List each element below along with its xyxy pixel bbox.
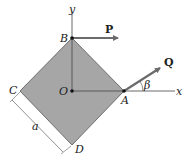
label-force-p: P — [105, 23, 113, 36]
label-force-q: Q — [164, 56, 174, 69]
label-dimension-a: a — [32, 120, 39, 133]
square-plate-diagram: y x B O A C D a P Q β — [0, 0, 187, 160]
angle-beta-arc — [140, 81, 143, 91]
label-b: B — [59, 32, 68, 45]
force-q-arrow — [124, 68, 160, 91]
point-o — [70, 89, 74, 93]
label-a: A — [120, 94, 129, 107]
label-o: O — [59, 85, 68, 98]
point-a — [122, 89, 126, 93]
label-angle-beta: β — [143, 79, 150, 92]
dimension-tick-d — [61, 146, 71, 154]
label-y-axis: y — [68, 3, 76, 16]
label-x-axis: x — [176, 85, 183, 98]
label-d: D — [74, 143, 84, 156]
label-c: C — [9, 84, 18, 97]
point-b — [70, 36, 74, 40]
